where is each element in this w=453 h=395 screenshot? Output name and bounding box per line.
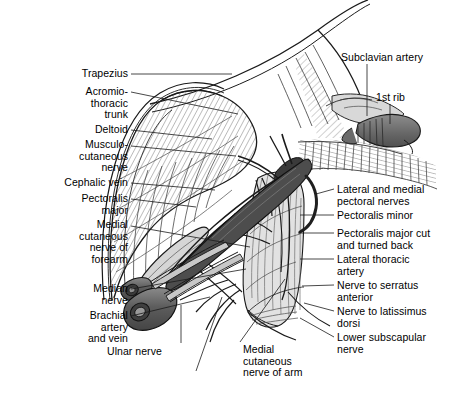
leader-line — [316, 189, 334, 194]
label-medial-cut-forearm: Medial cutaneous nerve of forearm — [18, 219, 128, 265]
label-median-nerve: Median nerve — [36, 283, 128, 306]
label-lateral-thoracic: Lateral thoracic artery — [337, 254, 453, 277]
label-nerve-serratus: Nerve to serratus anterior — [337, 280, 453, 303]
leader-line — [300, 318, 334, 337]
label-nerve-latissimus: Nerve to latissimus dorsi — [337, 306, 453, 329]
label-ulnar-nerve: Ulnar nerve — [107, 346, 187, 358]
leader-line — [302, 285, 334, 286]
label-medial-cut-arm: Medial cutaneous nerve of arm — [243, 344, 333, 379]
arm-outline — [180, 280, 240, 342]
label-cephalic-vein: Cephalic vein — [20, 177, 128, 189]
label-brachial-artery-vein: Brachial artery and vein — [30, 310, 128, 345]
label-deltoid: Deltoid — [48, 124, 128, 136]
label-pectoralis-minor: Pectoralis minor — [337, 210, 453, 222]
label-subclavian-artery: Subclavian artery — [341, 52, 453, 64]
label-lower-subscapular: Lower subscapular nerve — [337, 332, 453, 355]
label-first-rib: 1st rib — [376, 92, 436, 104]
label-lateral-medial-pect: Lateral and medial pectoral nerves — [337, 184, 453, 207]
label-pectoralis-major: Pectoralis major — [30, 193, 128, 216]
leader-line — [304, 303, 334, 311]
label-trapezius: Trapezius — [38, 68, 128, 80]
label-pect-major-cut: Pectoralis major cut and turned back — [337, 228, 453, 251]
anatomical-figure: TrapeziusAcromio- thoracic trunkDeltoidM… — [0, 0, 453, 395]
serratus-anterior-region — [298, 140, 437, 190]
label-musculocutaneous: Musculo- cutaneous nerve — [14, 139, 128, 174]
label-acromiothoracic: Acromio- thoracic trunk — [18, 86, 128, 121]
